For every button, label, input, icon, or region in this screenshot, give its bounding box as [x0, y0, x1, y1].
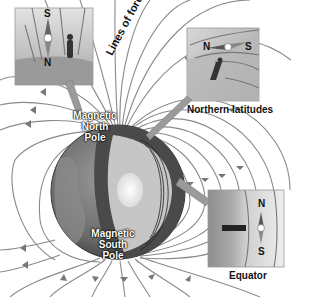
north-pole-line-3: Pole — [70, 132, 120, 143]
person-icon — [67, 40, 73, 58]
equator-inset — [176, 178, 284, 267]
pole-compass-s: S — [44, 8, 51, 19]
south-pole-line-1: Magnetic — [88, 228, 138, 239]
magnetic-south-pole-label: Magnetic South Pole — [88, 228, 138, 261]
equator-compass-s: S — [258, 246, 265, 257]
northern-latitudes-label: Northern latitudes — [187, 105, 273, 115]
person-lying-icon — [222, 225, 246, 231]
pole-compass-n: N — [44, 57, 51, 68]
south-pole-line-2: South — [88, 239, 138, 250]
equator-compass-n: N — [258, 198, 265, 209]
north-pole-line-1: Magnetic — [70, 110, 120, 121]
latitudes-compass-s: S — [245, 41, 252, 52]
magnetic-north-pole-label: Magnetic North Pole — [70, 110, 120, 143]
north-pole-line-2: North — [70, 121, 120, 132]
equator-label: Equator — [229, 271, 267, 281]
latitudes-compass-n: N — [203, 41, 210, 52]
south-pole-line-3: Pole — [88, 250, 138, 261]
